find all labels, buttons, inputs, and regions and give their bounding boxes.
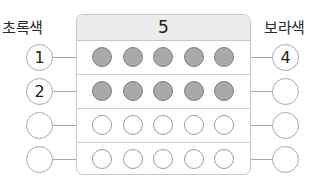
green-count-3[interactable] [26,112,53,139]
filled-dot [153,47,173,67]
filled-dot [214,47,234,67]
left-connector [53,125,76,126]
purple-count-2[interactable] [272,78,299,105]
filled-dot [153,81,173,101]
right-connector [251,125,272,126]
green-count-4[interactable] [26,146,53,173]
filled-dot [123,47,143,67]
table-row [77,143,250,175]
left-connector [53,91,76,92]
right-connector [251,159,272,160]
purple-count-1[interactable]: 4 [272,44,299,71]
empty-dot [184,149,204,169]
empty-dot [123,115,143,135]
table-row [77,41,250,75]
filled-dot [184,47,204,67]
empty-dot [153,115,173,135]
empty-dot [214,149,234,169]
table-header-total: 5 [77,15,250,41]
table-row [77,75,250,109]
empty-dot [123,149,143,169]
green-count-1[interactable]: 1 [26,44,53,71]
left-connector [53,159,76,160]
dot-table: 5 [76,14,251,175]
empty-dot [92,115,112,135]
right-connector [251,91,272,92]
empty-dot [153,149,173,169]
filled-dot [214,81,234,101]
filled-dot [92,81,112,101]
empty-dot [214,115,234,135]
purple-count-4[interactable] [272,146,299,173]
green-count-2[interactable]: 2 [26,78,53,105]
table-row [77,109,250,143]
right-connector [251,57,272,58]
green-label: 초록색 [2,16,43,37]
purple-count-3[interactable] [272,112,299,139]
left-connector [53,57,76,58]
empty-dot [184,115,204,135]
empty-dot [92,149,112,169]
filled-dot [92,47,112,67]
filled-dot [123,81,143,101]
filled-dot [184,81,204,101]
purple-label: 보라색 [264,16,305,37]
